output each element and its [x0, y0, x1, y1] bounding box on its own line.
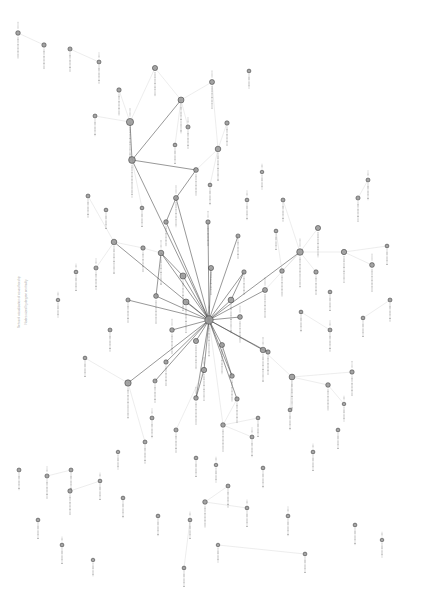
- graph-node[interactable]: [129, 157, 136, 164]
- graph-node[interactable]: [341, 249, 346, 254]
- graph-node[interactable]: [286, 514, 290, 518]
- hub-node[interactable]: [205, 316, 213, 324]
- graph-node[interactable]: [228, 297, 234, 303]
- graph-node[interactable]: [104, 208, 108, 212]
- graph-node[interactable]: [370, 263, 375, 268]
- graph-node[interactable]: [245, 198, 249, 202]
- graph-node[interactable]: [315, 225, 320, 230]
- graph-node[interactable]: [126, 118, 133, 125]
- graph-node[interactable]: [203, 500, 208, 505]
- graph-node[interactable]: [126, 298, 130, 302]
- graph-node[interactable]: [260, 170, 264, 174]
- graph-node[interactable]: [235, 397, 239, 401]
- graph-node[interactable]: [289, 374, 295, 380]
- graph-node[interactable]: [69, 468, 73, 472]
- graph-node[interactable]: [125, 380, 131, 386]
- graph-node[interactable]: [250, 435, 254, 439]
- graph-node[interactable]: [194, 456, 198, 460]
- graph-node[interactable]: [238, 315, 243, 320]
- graph-node[interactable]: [91, 558, 95, 562]
- graph-node[interactable]: [303, 552, 307, 556]
- graph-node[interactable]: [174, 196, 179, 201]
- graph-node[interactable]: [158, 250, 164, 256]
- graph-node[interactable]: [140, 206, 144, 210]
- graph-node[interactable]: [206, 220, 210, 224]
- graph-node[interactable]: [236, 234, 240, 238]
- graph-node[interactable]: [353, 523, 357, 527]
- graph-node[interactable]: [311, 450, 315, 454]
- graph-node[interactable]: [297, 249, 304, 256]
- graph-node[interactable]: [121, 496, 125, 500]
- graph-node[interactable]: [45, 474, 49, 478]
- graph-node[interactable]: [116, 450, 120, 454]
- graph-node[interactable]: [183, 299, 189, 305]
- graph-node[interactable]: [328, 328, 332, 332]
- graph-node[interactable]: [220, 343, 225, 348]
- graph-node[interactable]: [68, 47, 72, 51]
- graph-node[interactable]: [366, 178, 370, 182]
- graph-node[interactable]: [143, 440, 147, 444]
- graph-node[interactable]: [164, 220, 169, 225]
- graph-node[interactable]: [174, 428, 178, 432]
- graph-node[interactable]: [108, 328, 112, 332]
- graph-node[interactable]: [83, 356, 87, 360]
- graph-node[interactable]: [356, 196, 360, 200]
- graph-node[interactable]: [156, 514, 160, 518]
- graph-node[interactable]: [210, 80, 215, 85]
- graph-node[interactable]: [194, 396, 199, 401]
- graph-node[interactable]: [326, 383, 331, 388]
- graph-node[interactable]: [68, 489, 72, 493]
- graph-node[interactable]: [260, 347, 266, 353]
- graph-node[interactable]: [208, 183, 212, 187]
- graph-node[interactable]: [97, 60, 101, 64]
- graph-node[interactable]: [388, 298, 392, 302]
- graph-node[interactable]: [17, 468, 21, 472]
- graph-node[interactable]: [266, 350, 270, 354]
- graph-node[interactable]: [247, 69, 251, 73]
- graph-node[interactable]: [336, 428, 340, 432]
- graph-node[interactable]: [328, 290, 332, 294]
- graph-node[interactable]: [350, 370, 354, 374]
- graph-node[interactable]: [225, 121, 229, 125]
- graph-node[interactable]: [242, 270, 246, 274]
- graph-node[interactable]: [380, 538, 384, 542]
- graph-node[interactable]: [180, 273, 186, 279]
- graph-node[interactable]: [164, 360, 168, 364]
- graph-node[interactable]: [288, 408, 292, 412]
- graph-node[interactable]: [16, 31, 21, 36]
- graph-node[interactable]: [154, 294, 159, 299]
- graph-node[interactable]: [117, 88, 121, 92]
- graph-node[interactable]: [299, 310, 303, 314]
- graph-node[interactable]: [221, 423, 226, 428]
- graph-node[interactable]: [178, 97, 184, 103]
- graph-node[interactable]: [263, 288, 268, 293]
- graph-node[interactable]: [216, 543, 220, 547]
- graph-node[interactable]: [150, 416, 154, 420]
- graph-node[interactable]: [94, 266, 98, 270]
- graph-node[interactable]: [256, 416, 260, 420]
- graph-node[interactable]: [385, 244, 389, 248]
- graph-node[interactable]: [170, 328, 175, 333]
- graph-node[interactable]: [194, 168, 199, 173]
- graph-node[interactable]: [111, 239, 117, 245]
- graph-node[interactable]: [314, 270, 318, 274]
- graph-node[interactable]: [274, 229, 278, 233]
- graph-node[interactable]: [261, 466, 265, 470]
- graph-node[interactable]: [86, 194, 90, 198]
- graph-node[interactable]: [152, 65, 157, 70]
- graph-node[interactable]: [208, 265, 213, 270]
- graph-node[interactable]: [173, 143, 177, 147]
- graph-node[interactable]: [230, 374, 235, 379]
- graph-node[interactable]: [361, 316, 365, 320]
- graph-node[interactable]: [42, 43, 46, 47]
- graph-node[interactable]: [342, 402, 346, 406]
- graph-node[interactable]: [74, 270, 78, 274]
- graph-node[interactable]: [153, 379, 157, 383]
- graph-node[interactable]: [215, 146, 221, 152]
- graph-node[interactable]: [188, 518, 192, 522]
- graph-node[interactable]: [182, 566, 186, 570]
- graph-node[interactable]: [60, 543, 64, 547]
- graph-node[interactable]: [98, 479, 102, 483]
- graph-node[interactable]: [280, 269, 285, 274]
- graph-node[interactable]: [186, 125, 190, 129]
